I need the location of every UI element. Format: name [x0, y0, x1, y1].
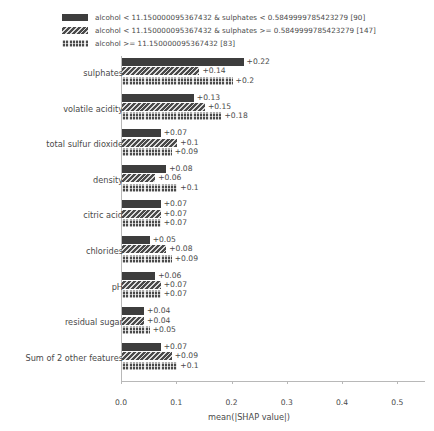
- bar-value-label: +0.07: [164, 343, 187, 351]
- bar-row: +0.15: [122, 103, 231, 111]
- bar[interactable]: [122, 58, 244, 66]
- bar[interactable]: [122, 362, 177, 370]
- bar-value-label: +0.13: [197, 94, 220, 102]
- legend-item-1[interactable]: alcohol < 11.150000095367432 & sulphates…: [62, 25, 432, 36]
- legend-label-0: alcohol < 11.150000095367432 & sulphates…: [95, 14, 365, 22]
- legend-label-1: alcohol < 11.150000095367432 & sulphates…: [95, 27, 376, 35]
- bar-row: +0.09: [122, 352, 198, 360]
- bar-row: +0.14: [122, 67, 226, 75]
- bar-row: +0.06: [122, 272, 181, 280]
- legend-swatch-dots-icon: [62, 40, 88, 47]
- bar[interactable]: [122, 148, 172, 156]
- x-axis-title: mean(|SHAP value|): [0, 412, 434, 422]
- bar-value-label: +0.07: [164, 200, 187, 208]
- bar[interactable]: [122, 255, 172, 263]
- bar-group: density+0.08+0.06+0.1: [0, 165, 434, 199]
- chart-legend: alcohol < 11.150000095367432 & sulphates…: [62, 12, 432, 49]
- bar-row: +0.09: [122, 148, 198, 156]
- bar-row: +0.06: [122, 174, 181, 182]
- bar[interactable]: [122, 129, 161, 137]
- x-tick-mark: [176, 381, 177, 384]
- bar[interactable]: [122, 352, 172, 360]
- bar-row: +0.05: [122, 236, 176, 244]
- bar-value-label: +0.14: [202, 67, 225, 75]
- bar[interactable]: [122, 103, 205, 111]
- bar-row: +0.2: [122, 77, 254, 85]
- bar-stack: +0.06+0.07+0.07: [122, 272, 432, 306]
- category-label: Sum of 2 other features: [25, 353, 123, 363]
- bar-value-label: +0.15: [208, 103, 231, 111]
- x-tick-mark: [397, 381, 398, 384]
- bar-value-label: +0.09: [175, 148, 198, 156]
- bar[interactable]: [122, 94, 194, 102]
- legend-item-2[interactable]: alcohol >= 11.150000095367432 [83]: [62, 38, 432, 49]
- bar-value-label: +0.08: [169, 245, 192, 253]
- bar[interactable]: [122, 67, 199, 75]
- legend-item-0[interactable]: alcohol < 11.150000095367432 & sulphates…: [62, 12, 432, 23]
- bar-row: +0.05: [122, 326, 176, 334]
- bar-stack: +0.04+0.04+0.05: [122, 307, 432, 341]
- bar[interactable]: [122, 245, 166, 253]
- bar[interactable]: [122, 343, 161, 351]
- bar-row: +0.07: [122, 219, 187, 227]
- bar-value-label: +0.1: [180, 362, 198, 370]
- bar[interactable]: [122, 317, 144, 325]
- bar-group: volatile acidity+0.13+0.15+0.18: [0, 94, 434, 128]
- x-tick-label: 0.3: [281, 398, 293, 407]
- x-tick-label: 0.5: [391, 398, 403, 407]
- bar-row: +0.1: [122, 184, 199, 192]
- bar[interactable]: [122, 290, 161, 298]
- bar[interactable]: [122, 174, 155, 182]
- shap-bar-chart: alcohol < 11.150000095367432 & sulphates…: [0, 0, 434, 431]
- bar-group: Sum of 2 other features+0.07+0.09+0.1: [0, 343, 434, 377]
- bar[interactable]: [122, 77, 233, 85]
- bar-value-label: +0.04: [147, 307, 170, 315]
- bar[interactable]: [122, 184, 177, 192]
- x-tick-mark: [342, 381, 343, 384]
- bar-value-label: +0.1: [180, 139, 198, 147]
- bar-value-label: +0.07: [164, 281, 187, 289]
- category-label: chlorides: [86, 246, 123, 256]
- legend-label-2: alcohol >= 11.150000095367432 [83]: [95, 40, 235, 48]
- category-label: sulphates: [83, 68, 123, 78]
- bar-stack: +0.07+0.1+0.09: [122, 129, 432, 163]
- bar-row: +0.09: [122, 255, 198, 263]
- bar-value-label: +0.07: [164, 129, 187, 137]
- bar[interactable]: [122, 200, 161, 208]
- x-axis-line: [121, 381, 425, 382]
- bar-stack: +0.07+0.09+0.1: [122, 343, 432, 377]
- bar-group: chlorides+0.05+0.08+0.09: [0, 236, 434, 270]
- bar[interactable]: [122, 307, 144, 315]
- bar-value-label: +0.07: [164, 210, 187, 218]
- bar[interactable]: [122, 165, 166, 173]
- bar-group: total sulfur dioxide+0.07+0.1+0.09: [0, 129, 434, 163]
- category-label: total sulfur dioxide: [46, 139, 123, 149]
- bar[interactable]: [122, 210, 161, 218]
- bar[interactable]: [122, 326, 150, 334]
- bar-stack: +0.05+0.08+0.09: [122, 236, 432, 270]
- bar[interactable]: [122, 219, 161, 227]
- bar-value-label: +0.05: [153, 236, 176, 244]
- category-label: citric acid: [83, 210, 123, 220]
- bar-stack: +0.22+0.14+0.2: [122, 58, 432, 92]
- bar-value-label: +0.18: [224, 112, 247, 120]
- x-tick-label: 0.2: [225, 398, 237, 407]
- bar-value-label: +0.09: [175, 352, 198, 360]
- bar-row: +0.18: [122, 112, 248, 120]
- bar[interactable]: [122, 112, 221, 120]
- bar-stack: +0.08+0.06+0.1: [122, 165, 432, 199]
- bar-group: pH+0.06+0.07+0.07: [0, 272, 434, 306]
- bar-value-label: +0.2: [236, 77, 254, 85]
- legend-swatch-solid-icon: [62, 14, 88, 21]
- bar[interactable]: [122, 236, 150, 244]
- bar[interactable]: [122, 139, 177, 147]
- bar-row: +0.07: [122, 129, 187, 137]
- x-tick-mark: [232, 381, 233, 384]
- bar-row: +0.07: [122, 290, 187, 298]
- bar[interactable]: [122, 281, 161, 289]
- bar-row: +0.13: [122, 94, 220, 102]
- bar[interactable]: [122, 272, 155, 280]
- bar-row: +0.08: [122, 245, 192, 253]
- x-axis-title-text: mean(|SHAP value|): [208, 412, 290, 422]
- bar-value-label: +0.09: [175, 255, 198, 263]
